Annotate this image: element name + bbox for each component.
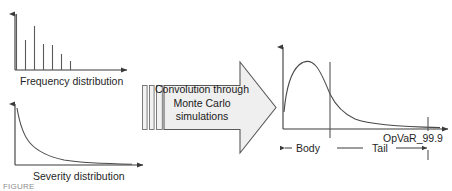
panel-severity-distribution: Severity distribution — [15, 104, 143, 182]
frequency-spikes — [17, 14, 71, 70]
body-label: Body — [296, 142, 321, 154]
panel-aggregate-loss-distribution: Body Tail OpVaR_99.9 — [283, 47, 448, 160]
aggregate-loss-curve — [284, 62, 440, 128]
panel-frequency-distribution: Frequency distribution — [15, 14, 127, 87]
figure-caption: FIGURE — [3, 182, 34, 191]
opvar-label: OpVaR_99.9 — [383, 132, 443, 144]
process-arrow-group: Convolution through Monte Carlo simulati… — [143, 62, 277, 153]
figure-loss-distribution-approach: Frequency distribution Severity distribu… — [0, 0, 452, 191]
frequency-distribution-label: Frequency distribution — [20, 75, 123, 87]
severity-distribution-label: Severity distribution — [33, 170, 125, 182]
body-annotation: Body — [285, 142, 321, 154]
process-arrow-line2: Monte Carlo — [173, 97, 230, 109]
diagram-canvas: Frequency distribution Severity distribu… — [0, 0, 452, 191]
process-arrow-line1: Convolution through — [155, 83, 249, 95]
severity-curve — [17, 108, 132, 164]
process-arrow-line3: simulations — [176, 110, 229, 122]
